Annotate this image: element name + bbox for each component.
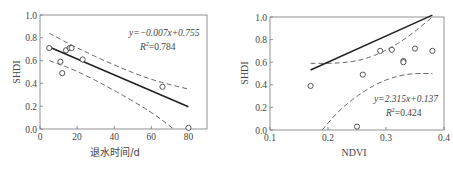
y-tick-label: 0.8 bbox=[255, 35, 267, 45]
x-tick-label: 80 bbox=[184, 132, 194, 142]
right-chart: 0.00.20.40.60.81.0 0.10.20.30.4 y=2.315x… bbox=[239, 13, 450, 159]
left-y-axis-label: SHDI bbox=[11, 60, 22, 83]
data-point bbox=[60, 71, 65, 76]
y-tick-label: 0.2 bbox=[25, 102, 37, 112]
x-tick-label: 0.3 bbox=[380, 133, 392, 143]
y-tick-label: 0.4 bbox=[255, 80, 267, 90]
y-tick-label: 0.4 bbox=[25, 79, 37, 89]
data-point bbox=[47, 45, 52, 50]
figure: 0.00.20.40.60.81.0 020406080 y=−0.007x+0… bbox=[0, 0, 453, 170]
x-tick-label: 0 bbox=[38, 132, 43, 142]
data-point bbox=[58, 59, 63, 64]
right-x-axis-label: NDVI bbox=[342, 147, 367, 158]
right-equation: y=2.315x+0.137 bbox=[373, 94, 439, 104]
data-point bbox=[308, 83, 313, 88]
data-point bbox=[160, 84, 165, 89]
data-point bbox=[186, 125, 191, 130]
y-tick-label: 0.6 bbox=[255, 58, 267, 68]
left-fit-line bbox=[49, 47, 188, 107]
left-chart: 0.00.20.40.60.81.0 020406080 y=−0.007x+0… bbox=[11, 11, 207, 159]
x-tick-label: 0.2 bbox=[322, 133, 334, 143]
regression-line bbox=[311, 15, 433, 70]
left-x-ticks: 020406080 bbox=[38, 126, 194, 142]
data-point bbox=[360, 72, 365, 77]
left-data-points bbox=[47, 45, 191, 130]
x-tick-label: 20 bbox=[72, 132, 82, 142]
y-tick-label: 0.0 bbox=[25, 125, 37, 135]
x-tick-label: 0.4 bbox=[438, 133, 450, 143]
y-tick-label: 1.0 bbox=[255, 13, 267, 23]
y-tick-label: 0.2 bbox=[255, 103, 267, 113]
regression-line bbox=[49, 47, 188, 107]
x-tick-label: 40 bbox=[109, 132, 119, 142]
left-x-axis-label: 退水时间/d bbox=[90, 146, 140, 158]
y-tick-label: 1.0 bbox=[25, 11, 37, 21]
data-point bbox=[389, 47, 394, 52]
data-point bbox=[378, 48, 383, 53]
left-equation: y=−0.007x+0.755 bbox=[128, 28, 200, 38]
data-point bbox=[412, 46, 417, 51]
data-point bbox=[401, 60, 406, 65]
x-tick-label: 0.1 bbox=[264, 133, 276, 143]
x-tick-label: 60 bbox=[147, 132, 157, 142]
left-r2: R2=0.784 bbox=[139, 41, 176, 52]
right-fit-line bbox=[311, 15, 433, 70]
confidence-lower bbox=[49, 61, 173, 129]
data-point bbox=[354, 124, 359, 129]
data-point bbox=[80, 57, 85, 62]
y-tick-label: 0.6 bbox=[25, 56, 37, 66]
data-point bbox=[69, 45, 74, 50]
data-point bbox=[430, 48, 435, 53]
y-tick-label: 0.8 bbox=[25, 33, 37, 43]
right-r2: R2=0.424 bbox=[385, 107, 422, 118]
right-y-axis-label: SHDI bbox=[239, 61, 250, 84]
